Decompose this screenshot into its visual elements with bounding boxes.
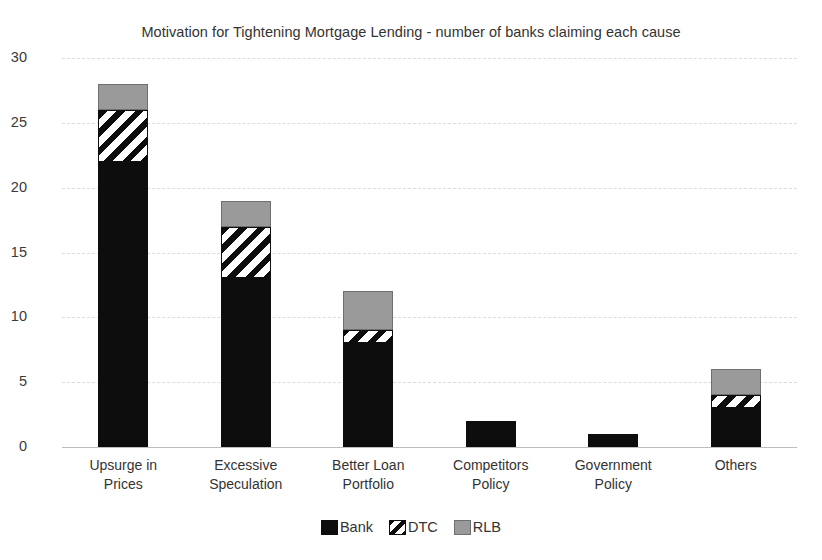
bar-stack (588, 434, 638, 447)
bar-segment-dtc[interactable] (98, 110, 148, 162)
bar-segment-bank[interactable] (711, 408, 761, 447)
x-tick-label: CompetitorsPolicy (430, 456, 553, 494)
x-tick-label-line: Government (552, 456, 675, 475)
x-tick-label-line: Better Loan (307, 456, 430, 475)
gridline-30 (62, 58, 797, 59)
plot-area: 302520151050 (62, 58, 797, 447)
legend-item-rlb[interactable]: RLB (454, 520, 501, 535)
legend-label: RLB (473, 520, 501, 535)
gridline-10 (62, 317, 797, 318)
x-tick-label: GovernmentPolicy (552, 456, 675, 494)
y-tick-label-25: 25 (0, 114, 27, 130)
y-tick-label-15: 15 (0, 244, 27, 260)
bar-stack (98, 84, 148, 447)
y-tick-label-5: 5 (0, 373, 27, 389)
x-tick-label-line: Upsurge in (62, 456, 185, 475)
legend-swatch-rlb-icon (454, 520, 471, 535)
gridline-25 (62, 123, 797, 124)
x-tick-label-line: Policy (552, 475, 675, 494)
bar-stack (343, 291, 393, 447)
legend-label: Bank (340, 520, 373, 535)
bar-group[interactable] (711, 58, 761, 447)
stacked-bar-chart: Motivation for Tightening Mortgage Lendi… (0, 0, 822, 560)
gridline-20 (62, 188, 797, 189)
x-tick-label-line: Policy (430, 475, 553, 494)
x-tick-label: Others (675, 456, 798, 475)
x-tick-label-line: Portfolio (307, 475, 430, 494)
bar-segment-bank[interactable] (98, 162, 148, 447)
x-tick-label: Upsurge inPrices (62, 456, 185, 494)
bar-segment-dtc[interactable] (343, 330, 393, 343)
bar-segment-rlb[interactable] (98, 84, 148, 110)
gridline-0 (62, 447, 797, 448)
bar-stack (466, 421, 516, 447)
bar-segment-rlb[interactable] (221, 201, 271, 227)
bar-segment-dtc[interactable] (221, 227, 271, 279)
bar-segment-bank[interactable] (221, 278, 271, 447)
x-tick-label: Better LoanPortfolio (307, 456, 430, 494)
bar-stack (711, 369, 761, 447)
chart-title: Motivation for Tightening Mortgage Lendi… (0, 24, 822, 40)
legend-item-bank[interactable]: Bank (321, 520, 373, 535)
x-tick-label-line: Speculation (185, 475, 308, 494)
bar-group[interactable] (588, 58, 638, 447)
y-tick-label-10: 10 (0, 308, 27, 324)
bar-segment-rlb[interactable] (711, 369, 761, 395)
x-tick-label: ExcessiveSpeculation (185, 456, 308, 494)
bar-group[interactable] (343, 58, 393, 447)
legend-label: DTC (408, 520, 438, 535)
x-tick-label-line: Excessive (185, 456, 308, 475)
x-tick-label-line: Others (675, 456, 798, 475)
y-tick-label-0: 0 (0, 438, 27, 454)
bar-segment-bank[interactable] (466, 421, 516, 447)
y-tick-label-30: 30 (0, 49, 27, 65)
legend-swatch-dtc-icon (389, 520, 406, 535)
y-tick-label-20: 20 (0, 179, 27, 195)
chart-legend: BankDTCRLB (0, 520, 822, 535)
bar-segment-rlb[interactable] (343, 291, 393, 330)
bar-group[interactable] (221, 58, 271, 447)
gridline-15 (62, 253, 797, 254)
bar-group[interactable] (466, 58, 516, 447)
bar-segment-bank[interactable] (343, 343, 393, 447)
bar-stack (221, 201, 271, 447)
x-tick-label-line: Prices (62, 475, 185, 494)
legend-item-dtc[interactable]: DTC (389, 520, 438, 535)
bar-segment-bank[interactable] (588, 434, 638, 447)
bar-group[interactable] (98, 58, 148, 447)
gridline-5 (62, 382, 797, 383)
bar-segment-dtc[interactable] (711, 395, 761, 408)
legend-swatch-bank-icon (321, 520, 338, 535)
x-tick-label-line: Competitors (430, 456, 553, 475)
